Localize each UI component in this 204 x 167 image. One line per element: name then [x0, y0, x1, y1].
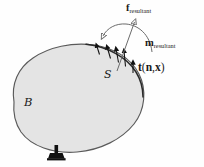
body-outline: [13, 44, 144, 152]
resultant-moment-label: mresultant: [145, 38, 175, 49]
figure-container: fresultant mresultant t(n,x) S B: [0, 0, 204, 167]
body-label: B: [24, 97, 32, 109]
resultant-force-subscript: resultant: [130, 7, 152, 14]
resultant-force-label: fresultant: [126, 3, 151, 14]
resultant-force-symbol: f: [126, 2, 130, 13]
traction-paren-close: ): [161, 61, 165, 73]
traction-label: t(n,x): [138, 62, 165, 74]
resultant-moment-symbol: m: [145, 37, 154, 48]
resultant-moment-subscript: resultant: [154, 42, 176, 49]
diagram-canvas: [0, 0, 204, 167]
surface-label: S: [104, 69, 112, 80]
